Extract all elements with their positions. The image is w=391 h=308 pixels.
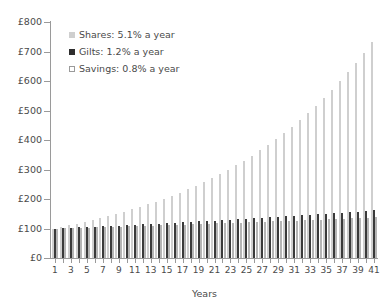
y-axis-label: £800: [18, 17, 42, 27]
x-axis-label: 13: [145, 266, 156, 275]
x-axis-tick: [342, 259, 343, 263]
y-axis-tick: [44, 81, 50, 82]
x-axis-tick: [135, 259, 136, 263]
x-axis-label: 5: [84, 266, 90, 275]
bar-savings-year-28: [272, 221, 274, 258]
bar-savings-year-22: [224, 223, 226, 258]
bar-savings-year-40: [367, 218, 369, 258]
x-axis-tick: [318, 259, 319, 263]
bar-chart: £0£100£200£300£400£500£600£700£800 13579…: [0, 0, 391, 308]
x-axis-tick: [334, 259, 335, 263]
x-axis-tick: [254, 259, 255, 263]
x-axis-tick: [63, 259, 64, 263]
x-axis-tick: [199, 259, 200, 263]
x-axis-tick: [222, 259, 223, 263]
bar-savings-year-3: [72, 228, 74, 258]
y-axis-label: £100: [18, 224, 42, 234]
bar-savings-year-18: [192, 224, 194, 258]
x-axis-label: 33: [304, 266, 315, 275]
legend-label: Gilts: 1.2% a year: [79, 47, 164, 57]
bar-savings-year-13: [152, 226, 154, 258]
x-axis-label: 9: [116, 266, 122, 275]
bar-savings-year-20: [208, 224, 210, 258]
x-axis-tick: [302, 259, 303, 263]
y-axis-label: £600: [18, 76, 42, 86]
y-axis-label: £200: [18, 194, 42, 204]
y-axis-label: £400: [18, 135, 42, 145]
x-axis-tick: [286, 259, 287, 263]
chart-legend: Shares: 5.1% a yearGilts: 1.2% a yearSav…: [69, 26, 180, 77]
bar-savings-year-35: [328, 219, 330, 258]
x-axis-tick: [207, 259, 208, 263]
bar-savings-year-4: [80, 228, 82, 258]
y-axis-tick: [44, 140, 50, 141]
bar-savings-year-25: [248, 222, 250, 258]
x-axis-label: 21: [209, 266, 220, 275]
y-axis-tick: [44, 229, 50, 230]
legend-item-savings: Savings: 0.8% a year: [69, 60, 180, 77]
bar-savings-year-38: [351, 218, 353, 258]
bar-savings-year-36: [335, 219, 337, 258]
x-axis-tick: [270, 259, 271, 263]
y-axis-tick: [44, 170, 50, 171]
bar-savings-year-21: [216, 223, 218, 258]
x-axis-label: 3: [68, 266, 74, 275]
bar-savings-year-15: [168, 225, 170, 258]
y-axis-tick: [44, 22, 50, 23]
bar-savings-year-7: [104, 227, 106, 258]
x-axis-tick: [350, 259, 351, 263]
bar-savings-year-24: [240, 223, 242, 258]
bar-savings-year-41: [375, 217, 377, 258]
x-axis-tick: [71, 259, 72, 263]
y-axis-tick: [44, 111, 50, 112]
bar-savings-year-27: [264, 222, 266, 258]
x-axis-tick: [310, 259, 311, 263]
y-axis-tick: [44, 199, 50, 200]
bar-savings-year-14: [160, 225, 162, 258]
x-axis-tick: [143, 259, 144, 263]
x-axis-label: 25: [241, 266, 252, 275]
bar-savings-year-26: [256, 222, 258, 258]
x-axis-label: 19: [193, 266, 204, 275]
x-axis-label: 37: [336, 266, 347, 275]
y-axis-tick: [44, 52, 50, 53]
x-axis-tick: [191, 259, 192, 263]
x-axis-title: Years: [0, 288, 391, 299]
x-axis-tick: [358, 259, 359, 263]
x-axis-tick: [79, 259, 80, 263]
x-axis-tick: [55, 259, 56, 263]
x-axis-tick: [215, 259, 216, 263]
legend-swatch-gilts-icon: [69, 49, 75, 55]
bar-savings-year-23: [232, 223, 234, 258]
x-axis-tick: [167, 259, 168, 263]
legend-swatch-savings-icon: [69, 66, 75, 72]
y-axis-label: £300: [18, 165, 42, 175]
x-axis-label: 11: [129, 266, 140, 275]
x-axis-tick: [151, 259, 152, 263]
legend-label: Savings: 0.8% a year: [79, 64, 180, 74]
bar-savings-year-19: [200, 224, 202, 258]
legend-item-gilts: Gilts: 1.2% a year: [69, 43, 180, 60]
bar-savings-year-33: [312, 220, 314, 258]
bar-savings-year-6: [96, 227, 98, 258]
x-axis-label: 1: [52, 266, 58, 275]
bar-savings-year-9: [120, 227, 122, 258]
bar-savings-year-31: [296, 221, 298, 258]
bar-savings-year-37: [343, 219, 345, 258]
x-axis-tick: [366, 259, 367, 263]
x-axis-tick: [294, 259, 295, 263]
bar-savings-year-1: [56, 229, 58, 259]
x-axis-tick: [95, 259, 96, 263]
x-axis-tick: [111, 259, 112, 263]
y-axis-tick: [44, 258, 50, 259]
legend-swatch-shares-icon: [69, 32, 75, 38]
bar-savings-year-11: [136, 226, 138, 258]
x-axis-tick: [238, 259, 239, 263]
x-axis-label: 29: [273, 266, 284, 275]
x-axis-tick: [119, 259, 120, 263]
x-axis-title-label: Years: [192, 288, 217, 299]
x-axis-tick: [87, 259, 88, 263]
x-axis-label: 27: [257, 266, 268, 275]
bar-savings-year-30: [288, 221, 290, 258]
x-axis-label: 15: [161, 266, 172, 275]
